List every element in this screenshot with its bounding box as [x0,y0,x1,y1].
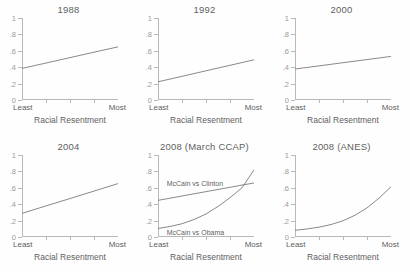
y-tick-label: .8 [10,31,16,39]
y-tick-label: .8 [146,31,152,39]
x-tick-mark [319,100,320,103]
series-line-1 [295,187,391,230]
panel-6: 2008 (ANES)1.8.6.4.20LeastMostRacial Res… [273,137,410,274]
y-tick-label: .2 [10,217,16,225]
plot-area: 1.8.6.4.20LeastMostRacial Resentment [158,18,254,100]
small-multiples-figure: 19881.8.6.4.20LeastMostRacial Resentment… [0,0,411,275]
series-line-2 [158,170,254,229]
y-tick-label: .6 [283,47,289,55]
x-axis-title: Racial Resentment [22,115,118,125]
plot-area: 1.8.6.4.20LeastMostRacial Resentment [22,155,118,237]
y-tick-label: .2 [283,80,289,88]
x-tick-mark [230,100,231,103]
panel-3: 20001.8.6.4.20LeastMostRacial Resentment [273,0,410,137]
series-line-1 [158,60,254,82]
series-annotation: McCain vs Obama [167,229,225,236]
y-tick-mark [18,100,22,101]
x-axis-title: Racial Resentment [158,252,254,262]
x-tick-mark [230,237,231,240]
panel-title: 2004 [0,141,137,152]
panel-5: 2008 (March CCAP)1.8.6.4.20LeastMostRaci… [136,137,273,274]
x-tick-mark [343,100,344,103]
panel-2: 19921.8.6.4.20LeastMostRacial Resentment [136,0,273,137]
y-tick-label: .4 [10,64,16,72]
x-tick-mark [343,237,344,240]
y-tick-mark [291,237,295,238]
panel-title: 1992 [136,4,273,15]
y-tick-label: .8 [10,168,16,176]
y-tick-label: .8 [146,168,152,176]
y-tick-label: .4 [146,64,152,72]
y-tick-mark [154,100,158,101]
x-tick-mark [46,100,47,103]
x-tick-mark [182,100,183,103]
y-tick-label: 1 [148,152,152,160]
series-canvas [295,18,391,100]
x-axis-high-label: Most [382,104,399,112]
x-tick-mark [46,237,47,240]
y-tick-mark [154,237,158,238]
y-tick-label: .8 [283,31,289,39]
plot-area: 1.8.6.4.20LeastMostRacial ResentmentMcCa… [158,155,254,237]
x-axis-low-label: Least [286,104,306,112]
y-tick-label: .4 [283,201,289,209]
y-tick-label: .2 [10,80,16,88]
y-tick-label: .2 [283,217,289,225]
panel-4: 20041.8.6.4.20LeastMostRacial Resentment [0,137,137,274]
y-tick-label: 1 [285,152,289,160]
panel-title: 2008 (March CCAP) [136,141,273,152]
plot-area: 1.8.6.4.20LeastMostRacial Resentment [22,18,118,100]
panel-title: 2000 [273,4,410,15]
x-tick-mark [70,100,71,103]
x-axis-low-label: Least [149,241,169,249]
series-canvas [295,155,391,237]
plot-area: 1.8.6.4.20LeastMostRacial Resentment [295,155,391,237]
x-tick-mark [206,100,207,103]
x-tick-mark [206,237,207,240]
y-tick-label: .8 [283,168,289,176]
series-canvas [158,18,254,100]
x-axis-high-label: Most [109,104,126,112]
y-tick-mark [291,100,295,101]
y-tick-label: 1 [12,15,16,23]
x-tick-mark [182,237,183,240]
x-axis-high-label: Most [245,241,262,249]
series-line-1 [22,47,118,69]
x-axis-low-label: Least [286,241,306,249]
series-line-1 [295,56,391,69]
x-axis-high-label: Most [382,241,399,249]
x-axis-high-label: Most [109,241,126,249]
series-annotation: McCain vs Clinton [167,180,223,187]
x-axis-title: Racial Resentment [295,252,391,262]
x-axis-title: Racial Resentment [295,115,391,125]
y-tick-label: 1 [12,152,16,160]
x-tick-mark [367,237,368,240]
y-tick-label: .6 [146,47,152,55]
plot-area: 1.8.6.4.20LeastMostRacial Resentment [295,18,391,100]
y-tick-label: .6 [10,47,16,55]
y-tick-label: .6 [283,184,289,192]
series-canvas [158,155,254,237]
y-tick-label: .4 [283,64,289,72]
y-tick-label: .4 [146,201,152,209]
x-axis-low-label: Least [149,104,169,112]
x-axis-low-label: Least [13,241,33,249]
y-tick-label: .6 [10,184,16,192]
y-tick-label: .2 [146,80,152,88]
x-axis-title: Racial Resentment [158,115,254,125]
x-tick-mark [70,237,71,240]
x-axis-title: Racial Resentment [22,252,118,262]
y-tick-label: .2 [146,217,152,225]
y-tick-label: .4 [10,201,16,209]
y-tick-label: 1 [285,15,289,23]
series-line-1 [22,184,118,214]
series-canvas [22,155,118,237]
panel-title: 2008 (ANES) [273,141,410,152]
x-axis-high-label: Most [245,104,262,112]
y-tick-label: 1 [148,15,152,23]
series-canvas [22,18,118,100]
x-axis-low-label: Least [13,104,33,112]
y-tick-label: .6 [146,184,152,192]
x-tick-mark [94,100,95,103]
panel-1: 19881.8.6.4.20LeastMostRacial Resentment [0,0,137,137]
